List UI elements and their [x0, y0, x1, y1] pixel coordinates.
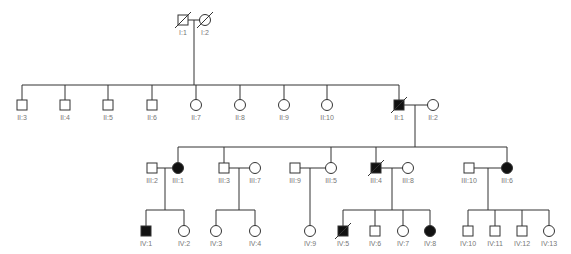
male-square-icon	[290, 163, 300, 173]
female-circle-icon	[211, 226, 222, 237]
individual-ii-10: II:10	[320, 100, 334, 122]
female-circle-icon	[173, 163, 184, 174]
male-square-icon	[147, 163, 157, 173]
individual-label: III:2	[146, 177, 158, 184]
individual-label: IV:2	[178, 240, 190, 247]
female-circle-icon	[428, 100, 439, 111]
individual-i-2: I:2	[197, 12, 213, 36]
female-circle-icon	[398, 226, 409, 237]
individual-ii-4: II:4	[60, 100, 70, 121]
individual-iv-8: IV:8	[424, 226, 436, 248]
individual-ii-6: II:6	[147, 100, 157, 121]
male-square-icon	[60, 100, 70, 110]
individual-ii-8: II:8	[235, 100, 246, 122]
individual-ii-9: II:9	[279, 100, 290, 122]
female-circle-icon	[250, 226, 261, 237]
individual-iv-11: IV:11	[487, 226, 503, 247]
pedigree-chart: I:1I:2II:3II:4II:5II:6II:7II:8II:9II:10I…	[0, 0, 571, 254]
female-circle-icon	[326, 163, 337, 174]
individual-label: III:1	[172, 177, 184, 184]
individual-label: III:6	[501, 177, 513, 184]
individual-label: IV:13	[541, 240, 557, 247]
individual-iv-7: IV:7	[397, 226, 409, 248]
individual-label: III:7	[249, 177, 261, 184]
individual-iv-2: IV:2	[178, 226, 190, 248]
pedigree-canvas: I:1I:2II:3II:4II:5II:6II:7II:8II:9II:10I…	[0, 0, 571, 254]
individuals: I:1I:2II:3II:4II:5II:6II:7II:8II:9II:10I…	[17, 12, 557, 247]
individual-label: III:3	[218, 177, 230, 184]
male-square-icon	[463, 226, 473, 236]
individual-label: III:10	[461, 177, 477, 184]
individual-iii-7: III:7	[249, 163, 261, 185]
female-circle-icon	[250, 163, 261, 174]
individual-label: II:9	[279, 114, 289, 121]
individual-ii-7: II:7	[191, 100, 202, 122]
individual-label: IV:12	[514, 240, 530, 247]
individual-iii-6: III:6	[501, 163, 513, 185]
female-circle-icon	[425, 226, 436, 237]
male-square-icon	[147, 100, 157, 110]
individual-label: II:5	[103, 114, 113, 121]
individual-iii-9: III:9	[289, 163, 301, 184]
individual-label: II:7	[191, 114, 201, 121]
individual-label: IV:7	[397, 240, 409, 247]
individual-label: I:2	[201, 29, 209, 36]
individual-iv-1: IV:1	[140, 226, 152, 247]
individual-label: II:4	[60, 114, 70, 121]
male-square-icon	[17, 100, 27, 110]
individual-label: I:1	[179, 29, 187, 36]
individual-label: III:5	[325, 177, 337, 184]
individual-label: IV:5	[337, 240, 349, 247]
male-square-icon	[370, 226, 380, 236]
individual-iv-12: IV:12	[514, 226, 530, 247]
individual-iv-13: IV:13	[541, 226, 557, 248]
relationship-lines	[22, 20, 549, 226]
male-square-icon	[141, 226, 151, 236]
female-circle-icon	[502, 163, 513, 174]
individual-label: IV:9	[304, 240, 316, 247]
male-square-icon	[103, 100, 113, 110]
individual-label: IV:6	[369, 240, 381, 247]
individual-iv-3: IV:3	[210, 226, 222, 248]
male-square-icon	[517, 226, 527, 236]
individual-label: II:1	[394, 114, 404, 121]
individual-ii-2: II:2	[428, 100, 439, 122]
female-circle-icon	[279, 100, 290, 111]
individual-ii-1: II:1	[391, 97, 407, 121]
individual-iv-9: IV:9	[304, 226, 316, 248]
male-square-icon	[464, 163, 474, 173]
male-square-icon	[219, 163, 229, 173]
individual-iv-10: IV:10	[460, 226, 476, 247]
individual-iii-3: III:3	[218, 163, 230, 184]
female-circle-icon	[191, 100, 202, 111]
individual-iii-4: III:4	[368, 160, 384, 184]
individual-label: III:8	[402, 177, 414, 184]
individual-label: II:6	[147, 114, 157, 121]
individual-label: IV:4	[249, 240, 261, 247]
individual-i-1: I:1	[175, 12, 191, 36]
individual-iv-4: IV:4	[249, 226, 261, 248]
individual-label: IV:11	[487, 240, 503, 247]
individual-iv-5: IV:5	[335, 223, 351, 247]
individual-iii-5: III:5	[325, 163, 337, 185]
female-circle-icon	[322, 100, 333, 111]
individual-iii-1: III:1	[172, 163, 184, 185]
female-circle-icon	[305, 226, 316, 237]
individual-label: II:8	[235, 114, 245, 121]
female-circle-icon	[179, 226, 190, 237]
individual-label: IV:3	[210, 240, 222, 247]
individual-label: II:10	[320, 114, 334, 121]
individual-label: II:2	[428, 114, 438, 121]
individual-label: III:4	[370, 177, 382, 184]
male-square-icon	[490, 226, 500, 236]
female-circle-icon	[235, 100, 246, 111]
individual-label: IV:1	[140, 240, 152, 247]
individual-iv-6: IV:6	[369, 226, 381, 247]
individual-ii-3: II:3	[17, 100, 27, 121]
female-circle-icon	[544, 226, 555, 237]
individual-ii-5: II:5	[103, 100, 113, 121]
individual-label: IV:8	[424, 240, 436, 247]
individual-label: III:9	[289, 177, 301, 184]
individual-iii-10: III:10	[461, 163, 477, 184]
female-circle-icon	[403, 163, 414, 174]
